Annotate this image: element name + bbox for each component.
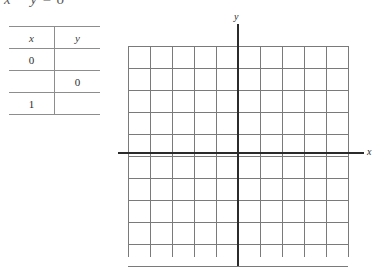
table-row: 0 xyxy=(9,49,100,71)
axis-lines xyxy=(118,24,364,266)
table-cell-x[interactable] xyxy=(9,71,55,93)
table-header-y: y xyxy=(55,27,101,49)
table-row: 0 xyxy=(9,71,100,93)
equation-label: x − y = 6 xyxy=(4,0,65,8)
table-row: 1 xyxy=(9,93,100,115)
table-cell-y[interactable] xyxy=(55,49,101,71)
table-cell-y[interactable]: 0 xyxy=(55,71,101,93)
x-axis-label: x xyxy=(367,146,371,157)
table-cell-x[interactable]: 0 xyxy=(9,49,55,71)
grid-lines xyxy=(128,46,348,266)
table-header-row: x y xyxy=(9,27,100,49)
table-header-x: x xyxy=(9,27,55,49)
xy-value-table: x y 0 0 1 xyxy=(9,26,99,115)
table-cell-x[interactable]: 1 xyxy=(9,93,55,115)
table-cell-y[interactable] xyxy=(55,93,101,115)
y-axis-label: y xyxy=(234,11,238,22)
